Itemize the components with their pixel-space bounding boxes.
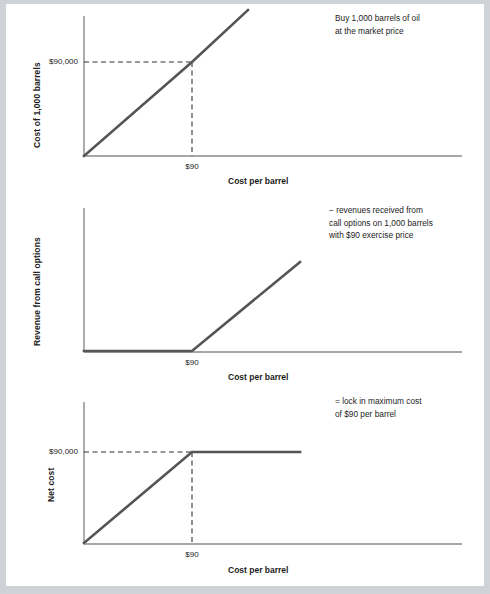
figure-canvas: Cost of 1,000 barrels $90,000 $90 Cost p…	[6, 4, 484, 586]
x-axis-label-cost-per-barrel: Cost per barrel	[228, 176, 288, 186]
annotation-lock-in-max-cost: = lock in maximum cost of $90 per barrel	[335, 395, 490, 420]
x-tick-label-90: $90	[162, 358, 222, 367]
x-axis-label-cost-per-barrel: Cost per barrel	[228, 372, 288, 382]
y-axis-label-revenue: Revenue from call options	[32, 237, 42, 346]
y-axis-label-net-cost: Net cost	[46, 468, 56, 502]
data-series-cost	[84, 10, 248, 156]
panel-netcost: Net cost $90,000 $90 Cost per barrel = l…	[6, 390, 484, 586]
y-axis-label-cost: Cost of 1,000 barrels	[32, 62, 42, 148]
annotation-buy-barrels: Buy 1,000 barrels of oil at the market p…	[335, 12, 485, 37]
panel-cost: Cost of 1,000 barrels $90,000 $90 Cost p…	[6, 4, 484, 194]
annotation-call-option-revenues: − revenues received from call options on…	[329, 204, 489, 242]
x-axis-label-cost-per-barrel: Cost per barrel	[228, 565, 288, 575]
y-tick-label-90000: $90,000	[6, 447, 78, 456]
x-tick-label-90: $90	[162, 162, 222, 171]
x-tick-label-90: $90	[162, 550, 222, 559]
y-tick-label-90000: $90,000	[6, 57, 78, 66]
panel-revenue: Revenue from call options $90 Cost per b…	[6, 194, 484, 390]
data-series-revenue	[84, 262, 300, 351]
